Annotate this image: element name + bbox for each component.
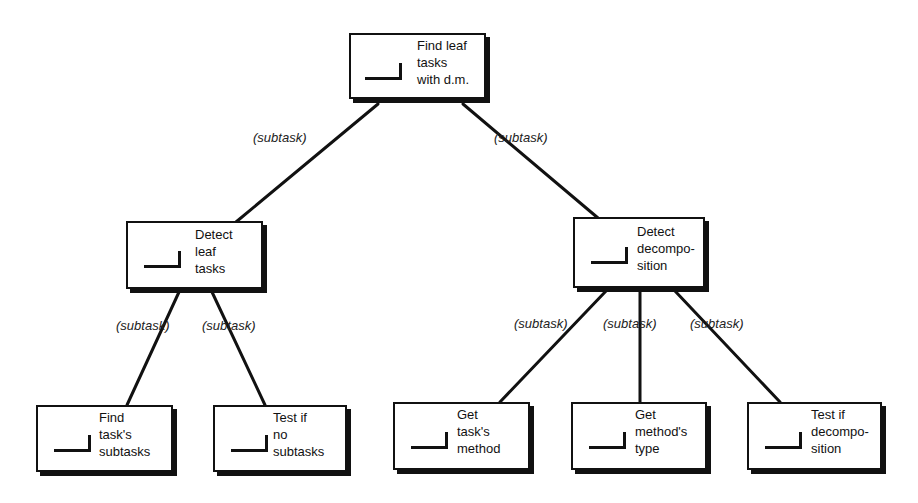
node-label: Get task's method <box>457 406 500 457</box>
task-glyph-icon <box>54 435 91 452</box>
node-label: Get method's type <box>635 406 687 457</box>
edge-root-detect-leaf <box>236 104 378 222</box>
edge-label-root-detect-leaf: (subtask) <box>253 130 306 145</box>
node-label: Find task's subtasks <box>99 409 150 460</box>
edge-label-detect-decomp-test-decomp: (subtask) <box>690 316 743 331</box>
node-get-tasks-method: Get task's method <box>393 402 530 470</box>
task-glyph-icon <box>589 432 626 449</box>
edge-label-detect-leaf-find-subtasks: (subtask) <box>116 318 169 333</box>
edge-detect-decomp-test-decomp <box>675 291 780 402</box>
task-glyph-icon <box>144 251 181 268</box>
node-label: Detect decompo- sition <box>637 223 695 274</box>
task-tree-diagram: (subtask) (subtask) (subtask) (subtask) … <box>0 0 918 503</box>
task-glyph-icon <box>411 432 448 449</box>
node-test-if-no-subtasks: Test if no subtasks <box>213 405 347 472</box>
node-label: Test if decompo- sition <box>811 406 869 457</box>
edge-label-detect-leaf-test-no-subtasks: (subtask) <box>202 318 255 333</box>
edge-root-detect-decomp <box>463 104 598 218</box>
node-detect-leaf-tasks: Detect leaf tasks <box>126 221 263 289</box>
node-label: Detect leaf tasks <box>195 226 233 277</box>
node-detect-decomposition: Detect decompo- sition <box>573 217 705 288</box>
node-get-methods-type: Get method's type <box>571 402 707 470</box>
edge-detect-leaf-test-no-subtasks <box>212 292 265 405</box>
edge-label-root-detect-decomp: (subtask) <box>494 130 547 145</box>
node-find-tasks-subtasks: Find task's subtasks <box>36 405 173 472</box>
task-glyph-icon <box>765 432 802 449</box>
task-glyph-icon <box>231 435 268 452</box>
edge-detect-decomp-get-method <box>500 291 606 402</box>
node-label: Find leaf tasks with d.m. <box>417 37 469 88</box>
node-find-leaf-tasks: Find leaf tasks with d.m. <box>349 33 486 99</box>
edge-detect-leaf-find-subtasks <box>127 292 179 405</box>
task-glyph-icon <box>591 247 628 264</box>
node-label: Test if no subtasks <box>273 409 324 460</box>
edge-label-detect-decomp-get-method: (subtask) <box>514 316 567 331</box>
edge-label-detect-decomp-get-method-type: (subtask) <box>603 316 656 331</box>
node-test-if-decomposition: Test if decompo- sition <box>747 402 882 470</box>
task-glyph-icon <box>365 63 402 80</box>
